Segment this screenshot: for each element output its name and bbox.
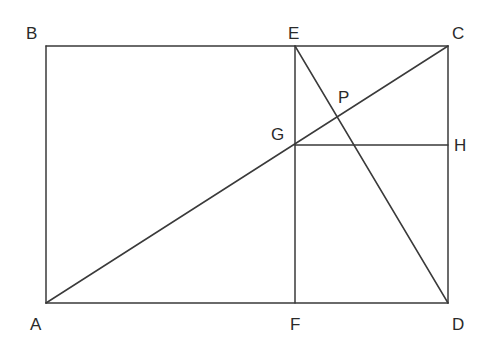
label-H: H <box>454 136 466 155</box>
label-G: G <box>271 125 284 144</box>
label-D: D <box>452 315 464 334</box>
segment-AC <box>46 46 448 303</box>
geometry-diagram: A B C D E F G H P <box>0 0 494 358</box>
label-A: A <box>30 315 42 334</box>
segment-ED <box>295 46 448 303</box>
label-E: E <box>288 24 299 43</box>
label-B: B <box>26 24 37 43</box>
label-C: C <box>452 24 464 43</box>
label-F: F <box>290 315 300 334</box>
label-P: P <box>338 88 349 107</box>
